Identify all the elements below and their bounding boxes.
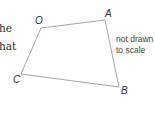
vertex-label-b: B bbox=[121, 85, 128, 96]
quadrilateral-oabc bbox=[21, 20, 119, 87]
vertex-label-a: A bbox=[105, 8, 112, 19]
not-to-scale-note: not drawn to scale bbox=[116, 34, 153, 56]
note-line-2: to scale bbox=[116, 45, 153, 56]
note-line-1: not drawn bbox=[116, 34, 153, 45]
vertex-label-o: O bbox=[35, 15, 43, 26]
quadrilateral-diagram bbox=[0, 0, 155, 121]
vertex-label-c: C bbox=[13, 74, 20, 85]
